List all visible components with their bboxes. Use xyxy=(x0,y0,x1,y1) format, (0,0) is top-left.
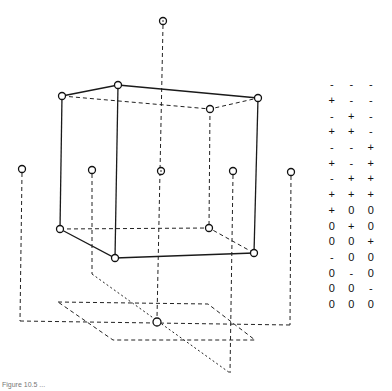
table-cell: 0 xyxy=(322,266,342,281)
table-cell: - xyxy=(342,77,362,92)
table-cell: + xyxy=(322,156,342,171)
table-cell: - xyxy=(342,93,362,108)
table-row: +-- xyxy=(322,93,381,109)
table-cell: 0 xyxy=(342,250,362,265)
table-row: -00 xyxy=(322,250,381,266)
table-cell: + xyxy=(342,124,362,139)
table-cell: + xyxy=(342,109,362,124)
table-row: ++- xyxy=(322,124,381,140)
table-row: 00+ xyxy=(322,234,381,250)
cube-edge-front-left xyxy=(115,85,118,258)
table-cell: 0 xyxy=(342,203,362,218)
cube-top-front-edges xyxy=(62,85,258,98)
projection-right-outer xyxy=(290,176,291,325)
table-cell: + xyxy=(361,187,381,202)
table-row: 000 xyxy=(322,297,381,313)
table-cell: + xyxy=(322,187,342,202)
table-cell: - xyxy=(361,109,381,124)
table-cell: - xyxy=(322,171,342,186)
table-cell: 0 xyxy=(361,219,381,234)
table-cell: 0 xyxy=(322,281,342,296)
table-row: --- xyxy=(322,77,381,93)
table-cell: - xyxy=(361,124,381,139)
table-cell: - xyxy=(322,140,342,155)
star-points xyxy=(19,18,295,327)
table-row: -+- xyxy=(322,108,381,124)
table-row: 0-0 xyxy=(322,265,381,281)
table-cell: + xyxy=(342,187,362,202)
table-cell: + xyxy=(322,124,342,139)
cube-bottom-front-edges xyxy=(60,229,254,258)
cube-hidden-top-edges xyxy=(62,96,258,109)
table-cell: 0 xyxy=(322,234,342,249)
table-cell: - xyxy=(342,156,362,171)
table-cell: + xyxy=(342,219,362,234)
table-cell: 0 xyxy=(361,297,381,312)
table-cell: 0 xyxy=(342,297,362,312)
table-cell: 0 xyxy=(361,266,381,281)
figure-caption: Figure 10.5 ... xyxy=(2,381,45,388)
table-cell: 0 xyxy=(342,281,362,296)
table-cell: + xyxy=(322,203,342,218)
cube-edge-left xyxy=(60,96,62,229)
table-cell: 0 xyxy=(361,250,381,265)
table-cell: 0 xyxy=(322,219,342,234)
table-row: --+ xyxy=(322,140,381,156)
table-cell: - xyxy=(342,266,362,281)
cube-hidden-vertical-edge xyxy=(209,109,210,228)
table-cell: - xyxy=(322,77,342,92)
cube-edge-right xyxy=(254,98,258,253)
cube-hidden-bottom-edges xyxy=(60,228,254,253)
table-cell: - xyxy=(361,77,381,92)
design-matrix-table: ---+---+-++---++-+-++++++000+000+-000-00… xyxy=(322,77,381,312)
table-cell: - xyxy=(361,281,381,296)
table-row: 00- xyxy=(322,281,381,297)
table-cell: - xyxy=(342,140,362,155)
table-cell: + xyxy=(361,234,381,249)
table-cell: - xyxy=(322,109,342,124)
table-cell: + xyxy=(361,171,381,186)
table-cell: + xyxy=(361,140,381,155)
table-cell: + xyxy=(342,171,362,186)
table-cell: 0 xyxy=(322,297,342,312)
table-row: -++ xyxy=(322,171,381,187)
table-cell: + xyxy=(361,156,381,171)
table-cell: + xyxy=(322,93,342,108)
table-cell: - xyxy=(361,93,381,108)
table-row: +00 xyxy=(322,203,381,219)
table-cell: 0 xyxy=(342,234,362,249)
table-row: 0+0 xyxy=(322,218,381,234)
table-row: +-+ xyxy=(322,155,381,171)
table-row: +++ xyxy=(322,187,381,203)
table-cell: - xyxy=(322,250,342,265)
table-cell: 0 xyxy=(361,203,381,218)
projection-left-outer xyxy=(20,173,22,321)
projection-right-inner xyxy=(230,175,233,373)
